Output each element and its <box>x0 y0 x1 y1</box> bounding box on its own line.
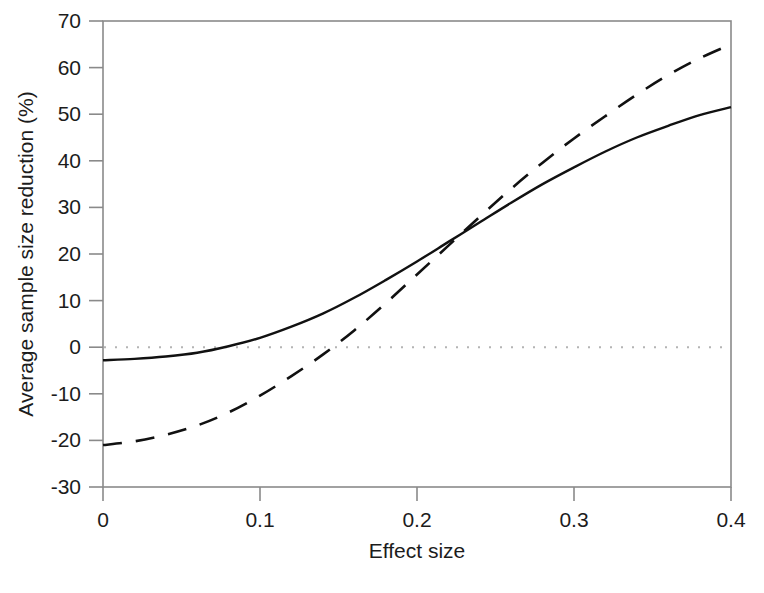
y-tick-label-60: 60 <box>58 56 81 79</box>
x-axis-title: Effect size <box>369 539 466 562</box>
x-axis-ticks <box>103 487 731 501</box>
y-tick-label-0: 0 <box>69 335 81 358</box>
y-tick-label--20: -20 <box>51 428 81 451</box>
y-tick-label-50: 50 <box>58 102 81 125</box>
x-tick-label-0: 0 <box>97 508 109 531</box>
x-tick-label-0.3: 0.3 <box>559 508 588 531</box>
y-axis-tick-labels: -30-20-10010203040506070 <box>51 9 81 498</box>
y-axis-title: Average sample size reduction (%) <box>14 91 37 416</box>
y-tick-label-30: 30 <box>58 195 81 218</box>
plot-panel <box>103 21 731 487</box>
y-tick-label-10: 10 <box>58 289 81 312</box>
x-tick-label-0.2: 0.2 <box>402 508 431 531</box>
y-tick-label--30: -30 <box>51 475 81 498</box>
chart-canvas: -30-20-10010203040506070 00.10.20.30.4 E… <box>0 0 764 593</box>
plot-background <box>103 21 731 487</box>
x-tick-label-0.4: 0.4 <box>716 508 746 531</box>
y-tick-label-40: 40 <box>58 149 81 172</box>
y-tick-label-70: 70 <box>58 9 81 32</box>
figure-container: -30-20-10010203040506070 00.10.20.30.4 E… <box>0 0 764 593</box>
y-axis-ticks <box>89 21 103 487</box>
y-tick-label-20: 20 <box>58 242 81 265</box>
y-tick-label--10: -10 <box>51 382 81 405</box>
x-axis-tick-labels: 00.10.20.30.4 <box>97 508 746 531</box>
x-tick-label-0.1: 0.1 <box>245 508 274 531</box>
